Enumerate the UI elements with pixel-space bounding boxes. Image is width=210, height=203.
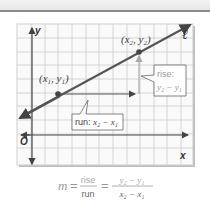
run-callout-title: run:	[75, 117, 91, 127]
formula-m: m	[58, 178, 67, 193]
origin-label: O	[20, 136, 28, 147]
point-2	[136, 49, 142, 55]
y-axis-label: y	[34, 25, 41, 36]
formula-equals-1: =	[70, 178, 78, 193]
formula-denominator: x₂ − x₁	[119, 189, 145, 199]
formula-run: run	[81, 189, 94, 199]
rise-callout-title: rise:	[157, 69, 174, 79]
line-label: ℓ	[182, 27, 188, 42]
x-axis-label: x	[179, 150, 186, 161]
run-callout-expr: x₂ − x₁	[92, 117, 118, 127]
point-1	[55, 91, 61, 97]
point-2-label: (x2, y2)	[121, 33, 151, 47]
rise-callout-expr: y₂ − y₁	[156, 82, 182, 92]
formula-rise: rise	[81, 175, 96, 185]
formula-numerator: y₂ − y₁	[119, 175, 145, 185]
formula-equals-2: =	[101, 178, 109, 193]
coordinate-diagram: y x O ℓ (x1, y1) (x2, y2) rise: y₂ − y₁ …	[0, 0, 210, 203]
slope-formula: m = rise run = y₂ − y₁ x₂ − x₁	[58, 175, 153, 199]
point-1-label: (x1, y1)	[39, 72, 69, 86]
